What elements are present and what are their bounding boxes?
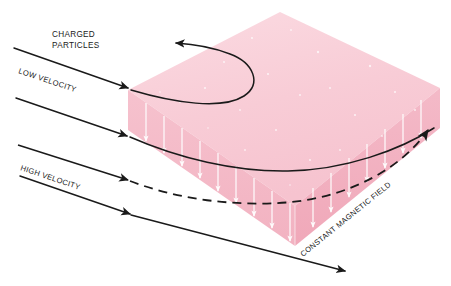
charged-particles-label-line2: PARTICLES (52, 41, 100, 50)
charged-particles-label-line1: CHARGED (52, 30, 95, 39)
high-velocity-label: HIGH VELOCITY (19, 163, 81, 191)
slab-top-face (128, 12, 440, 206)
field-region-slab (128, 12, 440, 246)
physics-diagram: CHARGED PARTICLES LOW VELOCITY HIGH VELO… (0, 0, 451, 286)
low-velocity-label: LOW VELOCITY (17, 66, 77, 94)
magnetic-field-scene: CHARGED PARTICLES LOW VELOCITY HIGH VELO… (0, 0, 451, 286)
